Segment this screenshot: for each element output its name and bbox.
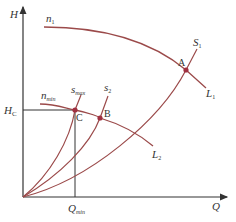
qmin-label: Qmin — [68, 202, 85, 215]
nmin-label: nmin — [41, 89, 56, 102]
l1-label: L1 — [205, 87, 215, 100]
s1-curve — [23, 49, 197, 197]
point-c-label: C — [76, 112, 83, 123]
l2-label: L2 — [151, 148, 161, 161]
hc-label: HC — [3, 104, 17, 118]
point-b-label: B — [104, 108, 111, 119]
point-a-label: A — [178, 57, 186, 68]
n1-label: n1 — [46, 12, 55, 25]
point-b — [97, 115, 102, 120]
s1-label: S1 — [193, 36, 202, 49]
smax-label: smax — [71, 83, 86, 96]
x-axis-label: Q — [212, 200, 220, 212]
diagram-svg: H Q HC Qmin n1 nmin S1 s2 smax L1 L2 A B… — [0, 0, 236, 222]
y-axis-label: H — [9, 8, 19, 20]
s2-label: s2 — [104, 81, 111, 94]
point-a — [183, 67, 188, 72]
pump-curve-diagram: H Q HC Qmin n1 nmin S1 s2 smax L1 L2 A B… — [0, 0, 236, 222]
s2-curve — [23, 96, 108, 197]
